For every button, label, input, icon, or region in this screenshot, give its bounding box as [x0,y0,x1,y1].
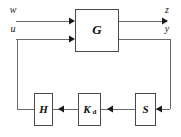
block-kd-label: K [82,103,91,115]
signal-label-y: y [164,23,170,34]
block-h-label: H [38,103,48,115]
block-s-label: S [142,103,148,115]
signal-label-w: w [10,4,17,15]
arrowhead-w-into-plant [69,18,75,25]
arrowhead-into-h [58,106,64,113]
block-plant-g-label: G [92,22,102,37]
arrowhead-u-into-plant [69,36,75,43]
block-diagram-figure: G H K d S w u z y [0,0,181,137]
arrowhead-into-controller [107,106,113,113]
diagram-canvas: G H K d S w u z y [0,0,181,137]
arrowhead-into-sensor [156,106,162,113]
signal-label-u: u [11,23,16,34]
block-kd-subscript: d [93,108,97,116]
wire-h-to-u-input [17,39,34,109]
signal-label-z: z [164,4,169,15]
